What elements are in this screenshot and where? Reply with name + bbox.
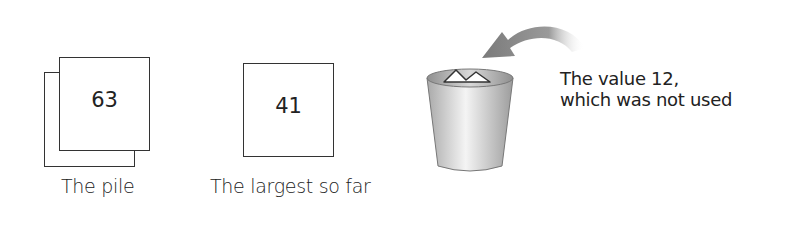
pile-caption: The pile xyxy=(61,175,134,197)
discarded-note: The value 12, which was not used xyxy=(560,68,732,110)
discarded-line-2: which was not used xyxy=(560,89,732,110)
pile-value: 63 xyxy=(60,88,149,112)
trash-bin-icon xyxy=(420,62,520,177)
pile-front-card: 63 xyxy=(59,57,150,151)
largest-caption: The largest so far xyxy=(210,175,371,197)
largest-card: 41 xyxy=(243,63,334,157)
discarded-line-1: The value 12, xyxy=(560,68,732,89)
largest-value: 41 xyxy=(244,94,333,118)
